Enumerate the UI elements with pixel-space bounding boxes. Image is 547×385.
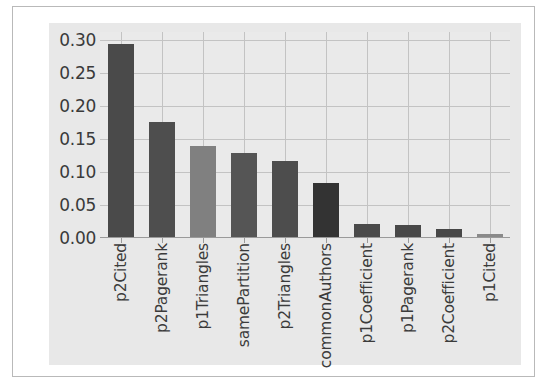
x-tick-label: p1Pagerank	[399, 243, 417, 333]
figure-frame: 0.000.050.100.150.200.250.30 p2Citedp2Pa…	[12, 6, 535, 377]
figure: 0.000.050.100.150.200.250.30 p2Citedp2Pa…	[0, 0, 547, 385]
gridline-vertical	[408, 32, 409, 238]
y-tick-label: 0.10	[59, 162, 96, 182]
x-tick-label: samePartition	[235, 243, 253, 347]
x-tick-label: p2Cited	[112, 243, 130, 302]
x-tick-label: p2Triangles	[276, 243, 294, 329]
y-axis-labels: 0.000.050.100.150.200.250.30	[49, 32, 96, 238]
y-tick-label: 0.30	[59, 30, 96, 50]
y-tick-label: 0.00	[59, 228, 96, 248]
bar-p2Triangles	[272, 161, 298, 238]
x-tick-label: p1Cited	[481, 243, 499, 302]
gridline-vertical	[367, 32, 368, 238]
bar-commonAuthors	[313, 183, 339, 238]
x-tick-label: p2Coefficient	[440, 243, 458, 343]
x-tick-label: p2Pagerank	[153, 243, 171, 333]
bar-p2Cited	[108, 44, 134, 238]
y-tick-label: 0.20	[59, 96, 96, 116]
plot-area	[100, 32, 510, 238]
y-tick-label: 0.15	[59, 129, 96, 149]
x-axis-labels: p2Citedp2Pagerankp1TrianglessamePartitio…	[100, 240, 510, 360]
bar-p1Triangles	[190, 146, 216, 238]
x-tick-label: p1Coefficient	[358, 243, 376, 343]
y-tick-label: 0.05	[59, 195, 96, 215]
gridline-vertical	[490, 32, 491, 238]
bar-p1Coefficient	[354, 224, 380, 238]
y-tick-label: 0.25	[59, 63, 96, 83]
bar-samePartition	[231, 153, 257, 238]
gridline-vertical	[449, 32, 450, 238]
x-tick-label: commonAuthors	[317, 243, 335, 368]
bar-p2Pagerank	[149, 122, 175, 238]
x-tick-label: p1Triangles	[194, 243, 212, 329]
